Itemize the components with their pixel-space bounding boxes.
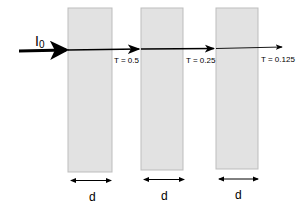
thickness-label-2: d xyxy=(161,189,168,203)
transmission-label-3: T = 0.125 xyxy=(261,55,295,64)
transmission-label-1: T = 0.5 xyxy=(114,56,140,65)
transmission-label-2: T = 0.25 xyxy=(186,56,216,65)
slab-1 xyxy=(68,8,112,172)
beam-segment-1 xyxy=(68,49,139,50)
slab-3 xyxy=(216,8,258,169)
thickness-label-1: d xyxy=(89,190,96,204)
slab-2 xyxy=(141,8,183,170)
beam-segment-2 xyxy=(141,49,214,50)
incident-beam-arrow xyxy=(19,50,66,51)
attenuation-diagram: I0 T = 0.5 T = 0.25 T = 0.125 d d d xyxy=(0,0,307,209)
incident-intensity-label: I0 xyxy=(35,33,45,50)
thickness-label-3: d xyxy=(235,188,242,202)
